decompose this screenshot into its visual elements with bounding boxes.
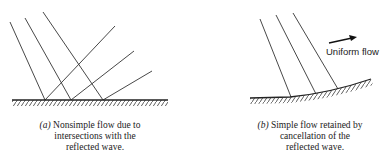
reflected-wave-1: [45, 26, 115, 100]
reflected-wave-3: [103, 71, 152, 100]
panel-a-diagram: [10, 12, 168, 106]
incident-wave-1: [10, 22, 45, 100]
incident-wave-2: [25, 18, 71, 100]
caption-b: (b) Simple flow retained by cancellation…: [240, 120, 380, 153]
uniform-flow-label: Uniform flow: [326, 46, 379, 57]
caption-a-letter: (a): [40, 120, 51, 130]
caption-b-letter: (b): [257, 120, 268, 130]
incident-wave-1: [260, 19, 291, 97]
reflected-wave-2: [71, 51, 134, 100]
incident-wave-3: [43, 12, 103, 100]
caption-a: (a) Nonsimple flow due to intersections …: [22, 120, 158, 153]
wall-hatching: [12, 100, 168, 106]
arrow-icon: [329, 35, 357, 43]
wall-hatching: [250, 79, 373, 104]
panel-b-diagram: [250, 13, 373, 104]
incident-wave-2: [276, 15, 316, 94]
